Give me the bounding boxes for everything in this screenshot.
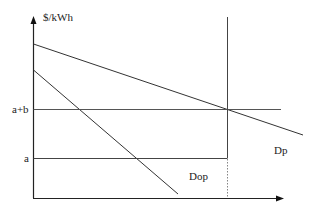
- demand-diagram: $/kWh a+b a Dp Dop: [0, 0, 317, 214]
- price-label-a-plus-b: a+b: [12, 104, 29, 115]
- curve-label-dop: Dop: [189, 171, 208, 182]
- curve-label-dp: Dp: [274, 145, 287, 156]
- dp-demand-line: [34, 44, 304, 135]
- price-label-a: a: [24, 153, 29, 164]
- dop-demand-line: [34, 70, 179, 194]
- y-axis-label: $/kWh: [43, 12, 73, 23]
- diagram-graphics: [0, 0, 317, 214]
